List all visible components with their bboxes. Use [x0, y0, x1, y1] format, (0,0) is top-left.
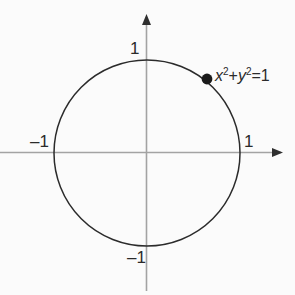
- unit-circle-figure: 1 –1 1 –1 x2+y2=1: [0, 0, 295, 295]
- equation-plus-operator: +: [229, 67, 238, 84]
- x-axis-tick-label-negative: –1: [30, 133, 49, 150]
- equation-variable-x: x: [215, 67, 223, 84]
- equation-variable-y: y: [238, 67, 246, 84]
- x-axis-arrow-icon: [272, 148, 283, 157]
- point-marker: [202, 74, 213, 85]
- y-axis-arrow-icon: [142, 14, 151, 25]
- y-axis-tick-label-negative: –1: [127, 249, 146, 266]
- circle-equation-annotation: x2+y2=1: [215, 68, 270, 84]
- y-axis-tick-label-positive: 1: [130, 40, 139, 57]
- equation-equals-one: =1: [251, 67, 269, 84]
- x-axis-tick-label-positive: 1: [244, 133, 253, 150]
